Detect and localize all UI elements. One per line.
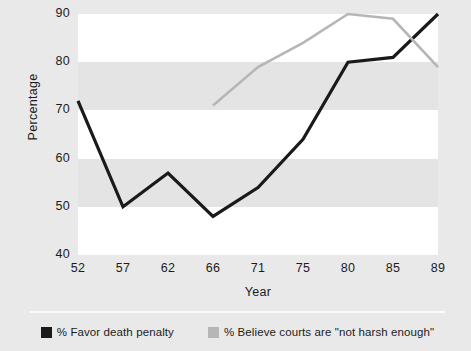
x-axis-title: Year xyxy=(78,285,438,299)
y-axis-tick-label: 60 xyxy=(55,152,70,165)
legend-label: % Believe courts are "not harsh enough" xyxy=(224,326,434,338)
series-container xyxy=(78,14,438,255)
y-axis-tick-label: 50 xyxy=(55,200,70,213)
y-axis-ticks: 908070605040 xyxy=(38,14,70,255)
y-axis-tick-label: 40 xyxy=(55,248,70,261)
series-line-favor-death-penalty xyxy=(78,14,438,216)
legend-item-favor-death-penalty: % Favor death penalty xyxy=(41,326,174,338)
x-axis-tick-label: 66 xyxy=(206,262,221,275)
legend-divider xyxy=(30,311,445,313)
chart-figure: 908070605040 525762667175808589 Percenta… xyxy=(0,0,471,351)
x-axis-tick-label: 89 xyxy=(431,262,446,275)
x-axis-tick-label: 62 xyxy=(161,262,176,275)
y-axis-title: Percentage xyxy=(26,52,40,162)
legend-label: % Favor death penalty xyxy=(57,326,174,338)
x-axis-tick-label: 52 xyxy=(71,262,86,275)
x-axis-tick-label: 80 xyxy=(341,262,356,275)
x-axis-ticks: 525762667175808589 xyxy=(78,262,438,282)
y-axis-tick-label: 80 xyxy=(55,55,70,68)
x-axis-tick-label: 71 xyxy=(251,262,266,275)
y-axis-tick-label: 90 xyxy=(55,7,70,20)
x-axis-tick-label: 85 xyxy=(386,262,401,275)
legend-item-courts-not-harsh-enough: % Believe courts are "not harsh enough" xyxy=(208,326,434,338)
x-axis-tick-label: 75 xyxy=(296,262,311,275)
y-axis-tick-label: 70 xyxy=(55,103,70,116)
x-axis-tick-label: 57 xyxy=(116,262,131,275)
chart-legend: % Favor death penalty % Believe courts a… xyxy=(30,322,445,342)
plot-area xyxy=(78,14,438,255)
legend-swatch-icon xyxy=(208,327,219,338)
legend-swatch-icon xyxy=(41,327,52,338)
series-line-courts-not-harsh-enough xyxy=(213,14,438,106)
